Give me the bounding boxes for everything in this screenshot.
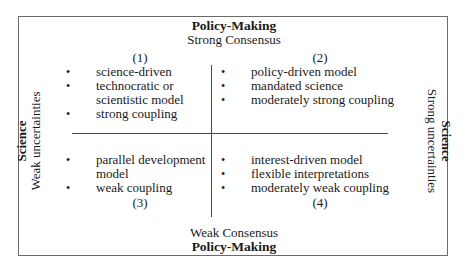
top-axis-title: Policy-Making [0, 19, 468, 33]
right-axis-title: Science [439, 71, 453, 211]
list-item: strong coupling [63, 107, 184, 121]
list-item-continuation: model [63, 167, 205, 181]
right-axis-subtitle: Strong uncertainties [425, 71, 439, 211]
list-item-continuation: scientistic model [63, 93, 184, 107]
left-axis-title: Science [15, 71, 29, 211]
quadrant-4-number: (4) [280, 196, 360, 210]
quadrant-4-list: interest-driven model flexible interpret… [218, 153, 389, 195]
list-item: parallel development [63, 153, 205, 167]
list-item: moderately weak coupling [218, 181, 389, 195]
quadrant-3-list: parallel development model weak coupling [63, 153, 205, 195]
bottom-axis-subtitle: Weak Consensus [0, 226, 468, 240]
list-item: policy-driven model [218, 65, 394, 79]
quadrant-3-number: (3) [100, 196, 180, 210]
list-item: moderately strong coupling [218, 93, 394, 107]
quadrant-2-list: policy-driven model mandated science mod… [218, 65, 394, 107]
horizontal-divider [72, 133, 388, 134]
list-item: mandated science [218, 79, 394, 93]
diagram-frame [18, 16, 448, 256]
right-axis-label: Science Strong uncertainties [423, 71, 453, 211]
vertical-divider [211, 65, 212, 217]
list-item: technocratic or [63, 79, 184, 93]
left-axis-label: Science Weak uncertainties [15, 71, 45, 211]
quadrant-1-number: (1) [100, 51, 180, 65]
top-axis-subtitle: Strong Consensus [0, 33, 468, 47]
quadrant-1-list: science-driven technocratic or scientist… [63, 65, 184, 121]
bottom-axis-title: Policy-Making [0, 240, 468, 254]
list-item: flexible interpretations [218, 167, 389, 181]
left-axis-subtitle: Weak uncertainties [29, 71, 43, 211]
list-item: science-driven [63, 65, 184, 79]
list-item: weak coupling [63, 181, 205, 195]
list-item: interest-driven model [218, 153, 389, 167]
quadrant-2-number: (2) [280, 51, 360, 65]
